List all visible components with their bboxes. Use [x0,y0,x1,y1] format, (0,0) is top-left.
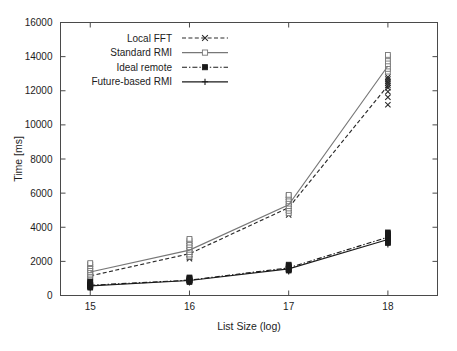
trend-line [90,237,388,285]
legend-label-3: Future-based RMI [91,76,172,87]
y-tick-label: 4000 [30,222,53,233]
legend-label-2: Ideal remote [116,62,172,73]
x-tick-label: 15 [85,301,97,312]
y-tick-label: 14000 [25,51,53,62]
trend-line [90,86,388,276]
chart-legend: Local FFTStandard RMIIdeal remoteFuture-… [91,33,228,88]
x-axis-title: List Size (log) [217,320,281,332]
y-axis-title: Time [ms] [12,136,24,182]
x-tick-label: 16 [184,301,196,312]
y-tick-label: 16000 [25,17,53,28]
marker-filled-square [202,65,207,70]
data-series-group [87,53,390,291]
time-vs-list-size-chart: 0200040006000800010000120001400016000 15… [0,0,457,351]
x-tick-label: 17 [283,301,295,312]
legend-label-0: Local FFT [127,33,172,44]
series-local-fft [88,64,391,281]
marker-open-square [286,192,291,197]
marker-cross [385,95,390,100]
y-tick-label: 8000 [30,154,53,165]
marker-open-square [88,261,93,266]
series-ideal-remote [88,230,390,290]
series-future-based-rmi [87,232,390,291]
y-axis: 0200040006000800010000120001400016000 [25,17,438,301]
y-tick-label: 6000 [30,188,53,199]
x-tick-label: 18 [382,301,394,312]
trend-line [90,240,388,286]
marker-plus [202,79,208,85]
marker-open-square [386,53,391,58]
marker-cross [385,102,390,107]
figure-container: 0200040006000800010000120001400016000 15… [0,0,457,351]
y-tick-label: 10000 [25,119,53,130]
trend-line [90,66,388,272]
legend-label-1: Standard RMI [110,47,172,58]
y-tick-label: 0 [47,290,53,301]
y-tick-label: 2000 [30,256,53,267]
y-tick-label: 12000 [25,85,53,96]
marker-open-square [187,236,192,241]
marker-open-square [202,50,207,55]
